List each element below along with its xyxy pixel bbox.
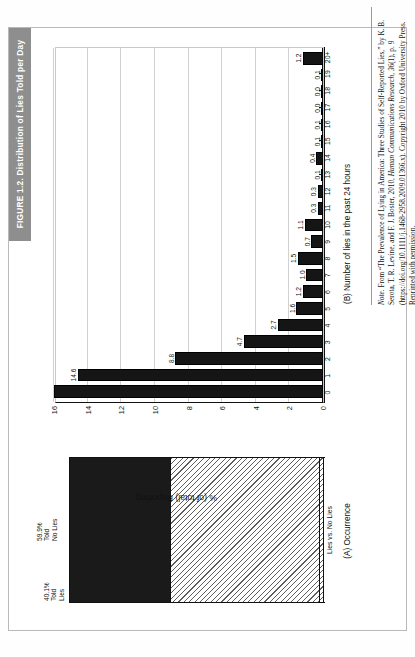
segment-callout-told-no-lies: 59.9% Told No Lies bbox=[36, 519, 58, 541]
x-tick-mark bbox=[319, 308, 323, 309]
bar-item: 0.7 bbox=[56, 233, 323, 250]
note-prefix: Note. bbox=[377, 289, 386, 305]
x-tick-mark bbox=[319, 358, 323, 359]
bar-value-label: 0.1 bbox=[314, 120, 321, 129]
x-tick-mark bbox=[319, 123, 323, 124]
bar-item: 0.0 bbox=[56, 100, 323, 117]
bar-item: 8.8 bbox=[56, 350, 323, 367]
panel-a-x-tick-label: Lies vs. No Lies bbox=[326, 457, 333, 603]
x-tick-mark bbox=[319, 241, 323, 242]
bar: 0.0 bbox=[321, 85, 323, 98]
panel-b-y-axis-label: % (of total) Reporting bbox=[136, 493, 217, 503]
x-tick-label: 2 bbox=[324, 351, 331, 368]
x-tick-mark bbox=[319, 190, 323, 191]
panel-b-plot-area: 0246810121416 14.68.84.72.71.61.21.01.50… bbox=[55, 47, 324, 403]
x-tick-label: 9 bbox=[324, 233, 331, 250]
note-text: Note. From “The Prevalence of Lying in A… bbox=[377, 5, 415, 305]
x-tick-label: 12 bbox=[324, 183, 331, 200]
x-tick-label: 20+ bbox=[324, 49, 331, 66]
x-tick-label: 17 bbox=[324, 99, 331, 116]
x-tick-mark bbox=[319, 291, 323, 292]
bar-item bbox=[56, 383, 323, 400]
bar: 14.6 bbox=[78, 369, 323, 382]
x-tick-mark bbox=[319, 157, 323, 158]
x-tick-mark bbox=[319, 392, 323, 393]
bar: 0.3 bbox=[318, 202, 323, 215]
callout-line-no-lies: No Lies bbox=[51, 519, 58, 541]
bar-group: 14.68.84.72.71.61.21.01.50.71.10.30.30.1… bbox=[56, 48, 323, 402]
bar-value-label: 14.6 bbox=[70, 369, 77, 382]
bar-item: 14.6 bbox=[56, 367, 323, 384]
panel-b-distribution: % (of total) Reporting 0246810121416 14.… bbox=[47, 35, 377, 433]
bar-item: 1.2 bbox=[56, 50, 323, 67]
bar: 0.1 bbox=[321, 69, 323, 82]
x-tick-label: 18 bbox=[324, 82, 331, 99]
bar-item: 0.1 bbox=[56, 67, 323, 84]
figure-content-rotated: % (of total) Reporting 40.1% Told Lies 5… bbox=[33, 29, 405, 629]
bar: 0.0 bbox=[321, 102, 323, 115]
panel-b-x-axis: 01234567891011121314151617181920+ bbox=[324, 47, 331, 403]
x-tick-label: 14 bbox=[324, 150, 331, 167]
panel-b-caption: (B) Number of lies in the past 24 hours bbox=[343, 35, 352, 433]
bar-item: 0.3 bbox=[56, 200, 323, 217]
bar-item: 0.1 bbox=[56, 167, 323, 184]
bar-value-label: 0.7 bbox=[304, 237, 311, 246]
x-tick-mark bbox=[319, 207, 323, 208]
note-divider bbox=[371, 7, 372, 305]
bar-value-label: 4.7 bbox=[236, 337, 243, 346]
x-tick-mark bbox=[319, 325, 323, 326]
bar: 1.2 bbox=[303, 52, 323, 65]
bar: 2.7 bbox=[278, 319, 323, 332]
x-tick-mark bbox=[319, 224, 323, 225]
bar-segment-told-lies bbox=[70, 458, 171, 602]
bar-item: 0.3 bbox=[56, 183, 323, 200]
bar: 0.1 bbox=[321, 169, 323, 182]
bar-value-label: 0.1 bbox=[314, 137, 321, 146]
figure-page: FIGURE 1.2. Distribution of Lies Told pe… bbox=[0, 0, 415, 657]
bar: 0.4 bbox=[316, 152, 323, 165]
bar: 0.3 bbox=[318, 185, 323, 198]
x-tick-mark bbox=[319, 56, 323, 57]
bar-item: 1.1 bbox=[56, 217, 323, 234]
x-tick-mark bbox=[319, 375, 323, 376]
bar: 4.7 bbox=[244, 335, 323, 348]
bar-value-label: 0.3 bbox=[310, 187, 317, 196]
x-tick-label: 6 bbox=[324, 284, 331, 301]
bar bbox=[54, 385, 323, 398]
panel-a-axis-bracket bbox=[319, 457, 325, 603]
x-tick-label: 7 bbox=[324, 267, 331, 284]
x-tick-label: 1 bbox=[324, 367, 331, 384]
x-tick-label: 15 bbox=[324, 133, 331, 150]
y-tick-label: 10 bbox=[150, 406, 159, 414]
bar-item: 0.1 bbox=[56, 133, 323, 150]
x-tick-label: 10 bbox=[324, 217, 331, 234]
bar-item: 1.2 bbox=[56, 283, 323, 300]
bar-value-label: 1.1 bbox=[297, 220, 304, 229]
bar-value-label: 0.3 bbox=[310, 204, 317, 213]
panel-a-stacked-bar bbox=[69, 457, 324, 603]
x-tick-mark bbox=[319, 73, 323, 74]
bar: 0.1 bbox=[321, 135, 323, 148]
y-tick-label: 4 bbox=[251, 406, 260, 410]
panel-a-plot-area: 40.1% Told Lies 59.9% Told No Lies bbox=[69, 457, 324, 603]
figure-title-bar: FIGURE 1.2. Distribution of Lies Told pe… bbox=[9, 28, 31, 241]
x-tick-label: 13 bbox=[324, 166, 331, 183]
callout-line-told: Told bbox=[43, 519, 50, 541]
x-tick-mark bbox=[319, 140, 323, 141]
bar-item: 2.7 bbox=[56, 317, 323, 334]
panel-a-caption: (A) Occurrence bbox=[343, 441, 352, 621]
bar-value-label: 1.2 bbox=[295, 54, 302, 63]
bar-value-label: 0.1 bbox=[314, 170, 321, 179]
bar-item: 4.7 bbox=[56, 333, 323, 350]
callout-line-told: Told bbox=[50, 582, 57, 601]
y-tick-label: 2 bbox=[285, 406, 294, 410]
x-tick-mark bbox=[319, 274, 323, 275]
bar-item: 0.0 bbox=[56, 83, 323, 100]
y-tick-label: 8 bbox=[184, 406, 193, 410]
x-tick-mark bbox=[319, 341, 323, 342]
y-tick-label: 16 bbox=[50, 406, 59, 414]
x-tick-label: 5 bbox=[324, 300, 331, 317]
gridline: 16 bbox=[53, 48, 54, 402]
callout-line-pct: 59.9% bbox=[36, 519, 43, 541]
x-tick-label: 19 bbox=[324, 66, 331, 83]
